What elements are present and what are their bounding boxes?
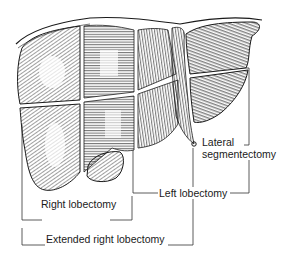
extended-right-lobectomy-label: Extended right lobectomy — [45, 233, 165, 245]
lateral-segmentectomy-label-2: segmentectomy — [201, 148, 277, 160]
left-lobectomy-label: Left lobectomy — [158, 187, 228, 199]
liver-diagram — [0, 0, 297, 261]
right-lobectomy-label: Right lobectomy — [40, 198, 117, 210]
extended-right-lobectomy-bracket — [22, 228, 45, 245]
right-lobe-posterior-upper — [18, 26, 80, 104]
right-lobe-posterior-lower — [20, 104, 80, 190]
left-lobe-lateral-segment — [186, 22, 260, 123]
left-lobectomy-bracket-left — [133, 150, 158, 193]
lateral-segmentectomy-label-1: Lateral — [201, 136, 235, 148]
right-lobe-anterior-upper — [84, 25, 134, 98]
